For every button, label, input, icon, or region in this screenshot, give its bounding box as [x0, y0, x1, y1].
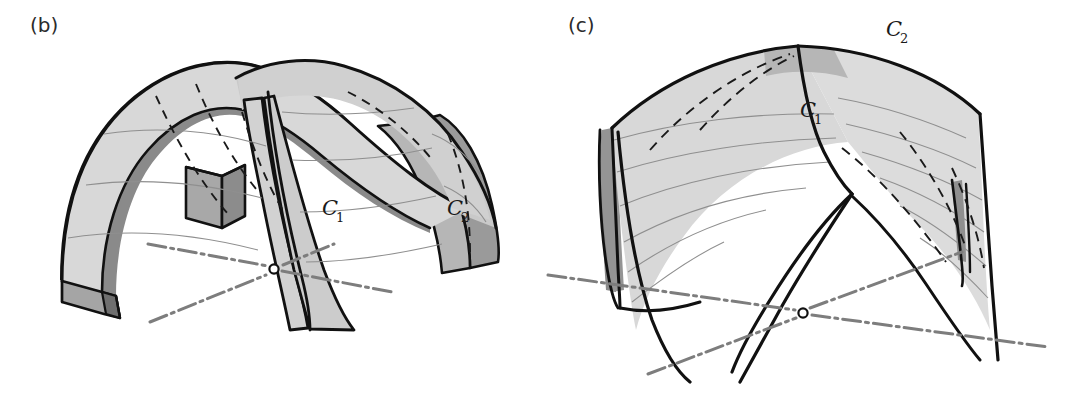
panel-b-label: (b) [30, 13, 58, 37]
panel-c: (c) C 1 C 2 [548, 13, 1048, 382]
curve-label-c2-subscript: 2 [461, 210, 469, 225]
pier-front-face [186, 167, 222, 228]
axis-b-front-diagonal [150, 275, 266, 322]
origin-marker-c [798, 308, 807, 317]
axis-c-left-segment [548, 275, 795, 310]
vault-diagram-svg: (b) C 1 C 2 [0, 0, 1068, 405]
panel-c-label: (c) [568, 13, 595, 37]
panel-c-left-sheet [612, 46, 848, 330]
origin-marker-b [269, 264, 278, 273]
curve-label-c1-subscript: 1 [336, 210, 344, 225]
panel-c-curve-label-c2: C 2 [886, 17, 908, 46]
axis-b-left-segment [148, 244, 268, 266]
panel-b-pier [186, 165, 245, 228]
front-foot-right-curve [740, 194, 852, 382]
axis-c-right-segment [812, 315, 1048, 347]
axis-c-back-diagonal [810, 252, 962, 308]
panel-b-curve-label-c1: C 1 [322, 196, 344, 225]
panel-b: (b) C 1 C 2 [30, 13, 499, 330]
curve-label-c1-subscript: 1 [814, 112, 822, 127]
axis-c-front-diagonal [648, 318, 796, 374]
panel-b-ground-axes [148, 244, 392, 322]
curve-label-c2-subscript: 2 [900, 31, 908, 46]
figure-root: (b) C 1 C 2 [0, 0, 1068, 405]
